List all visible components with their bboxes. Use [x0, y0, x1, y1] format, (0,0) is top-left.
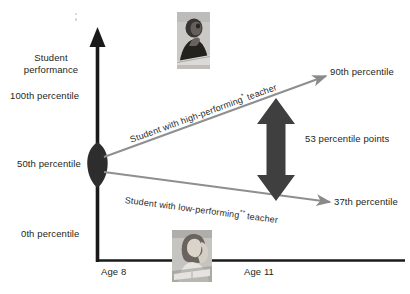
x-tick-age-8: Age 8 [101, 266, 126, 278]
scan-artifact [75, 13, 77, 15]
arrow-up-icon [90, 27, 106, 47]
y-tick-50th: 50th percentile [17, 158, 81, 170]
endpoint-label-90th: 90th percentile [330, 66, 394, 78]
ellipse-marker-icon [87, 142, 107, 188]
y-tick-0th: 0th percentile [21, 228, 79, 240]
y-axis-title-line2: performance [8, 64, 94, 76]
scan-artifact [75, 18, 77, 21]
y-tick-100th: 100th percentile [10, 90, 79, 102]
x-tick-age-11: Age 11 [244, 266, 274, 278]
gap-annotation-label: 53 percentile points [305, 133, 389, 145]
arrow-up-down-icon [257, 98, 295, 201]
boy-studying-photo [177, 12, 210, 69]
figure-canvas: Student performance 100th percentile 50t… [0, 0, 410, 294]
y-axis-title: Student performance [8, 52, 94, 76]
endpoint-label-37th: 37th percentile [334, 196, 398, 208]
y-axis-title-line1: Student [8, 52, 94, 64]
trajectory-high-performing [104, 76, 326, 157]
girl-frustrated-photo [172, 230, 212, 282]
